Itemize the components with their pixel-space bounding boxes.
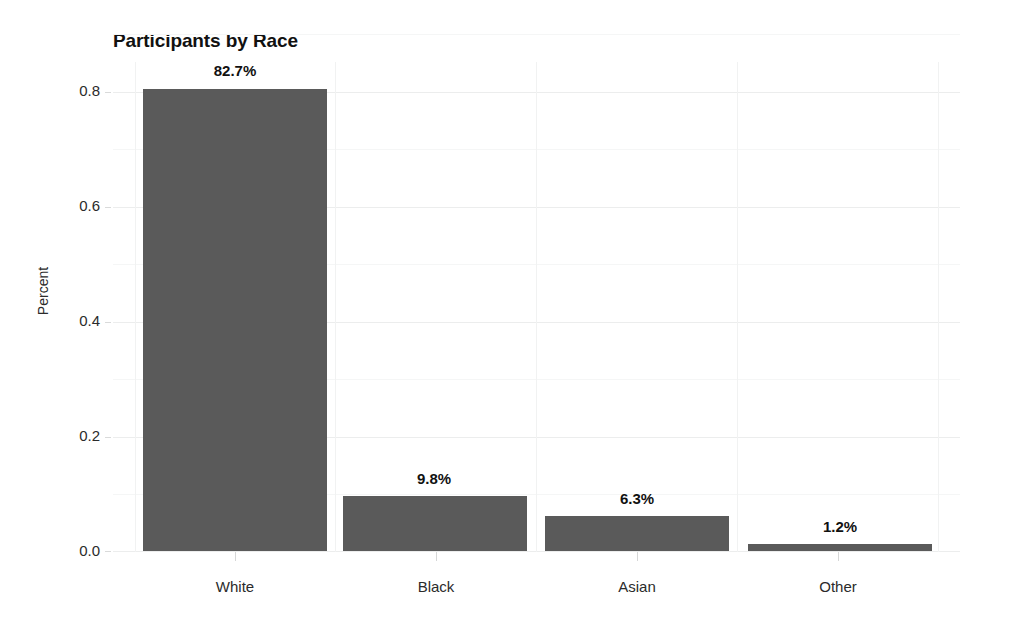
y-tick-mark-0-6 (105, 207, 111, 208)
y-tick-label-0-2: 0.2 (58, 427, 100, 444)
x-tick-mark-black (436, 552, 437, 561)
y-tick-mark-0-4 (105, 322, 111, 323)
y-axis-title: Percent (35, 251, 51, 331)
y-tick-label-0-6: 0.6 (58, 197, 100, 214)
gridline-vertical-4 (938, 62, 939, 552)
y-tick-label-0-0: 0.0 (58, 542, 100, 559)
y-tick-label-0-4: 0.4 (58, 312, 100, 329)
plot-area (113, 62, 960, 552)
bar-white[interactable] (143, 89, 327, 551)
bar-black[interactable] (343, 496, 527, 551)
x-tick-label-white: White (135, 578, 335, 595)
x-tick-mark-asian (637, 552, 638, 561)
bar-other[interactable] (748, 544, 932, 551)
y-tick-mark-0-8 (105, 92, 111, 93)
bar-asian[interactable] (545, 516, 729, 551)
gridline-vertical-2 (536, 62, 537, 552)
x-tick-label-black: Black (336, 578, 536, 595)
gridline-vertical-0 (135, 62, 136, 552)
gridline-minor-0-85 (113, 34, 960, 35)
y-tick-mark-0-0 (105, 551, 111, 552)
x-tick-mark-other (838, 552, 839, 561)
bar-value-label-other: 1.2% (740, 518, 940, 535)
bar-value-label-asian: 6.3% (537, 490, 737, 507)
x-tick-label-other: Other (738, 578, 938, 595)
y-tick-mark-0-2 (105, 437, 111, 438)
x-tick-label-asian: Asian (537, 578, 737, 595)
bar-value-label-white: 82.7% (135, 62, 335, 79)
gridline-vertical-3 (737, 62, 738, 552)
y-tick-label-0-8: 0.8 (58, 82, 100, 99)
bar-value-label-black: 9.8% (334, 470, 534, 487)
bar-chart-figure: Participants by Race Percent 0.8 0.6 0.4… (0, 0, 1009, 639)
x-tick-mark-white (235, 552, 236, 561)
